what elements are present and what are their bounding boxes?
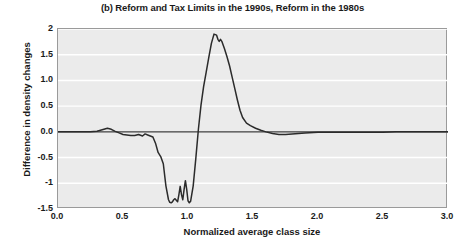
chart-title: (b) Reform and Tax Limits in the 1990s, … (0, 2, 465, 13)
x-axis-label: Normalized average class size (57, 226, 447, 237)
plot-svg (58, 29, 448, 209)
gridlines (58, 29, 448, 209)
data-line-series-0 (58, 34, 448, 203)
y-tick-label: -1 (7, 177, 53, 187)
y-tick-label: -0.5 (7, 152, 53, 162)
x-tick-label: 2.0 (297, 211, 337, 221)
x-axis-tick-labels: 0.00.51.01.52.02.53.0 (57, 211, 447, 225)
x-tick-label: 1.0 (167, 211, 207, 221)
chart-root: (b) Reform and Tax Limits in the 1990s, … (0, 0, 465, 244)
x-tick-label: 1.5 (232, 211, 272, 221)
x-tick-label: 0.5 (102, 211, 142, 221)
y-tick-label: 1.0 (7, 74, 53, 84)
y-tick-label: 0.5 (7, 100, 53, 110)
y-tick-label: 0.0 (7, 126, 53, 136)
y-tick-label: 1.5 (7, 49, 53, 59)
y-tick-label: 2 (7, 23, 53, 33)
y-axis-tick-labels: 21.51.00.50.0-0.5-1-1.5 (0, 28, 53, 208)
x-tick-label: 0.0 (37, 211, 77, 221)
plot-area (57, 28, 447, 208)
x-tick-label: 2.5 (362, 211, 402, 221)
x-tick-label: 3.0 (427, 211, 465, 221)
